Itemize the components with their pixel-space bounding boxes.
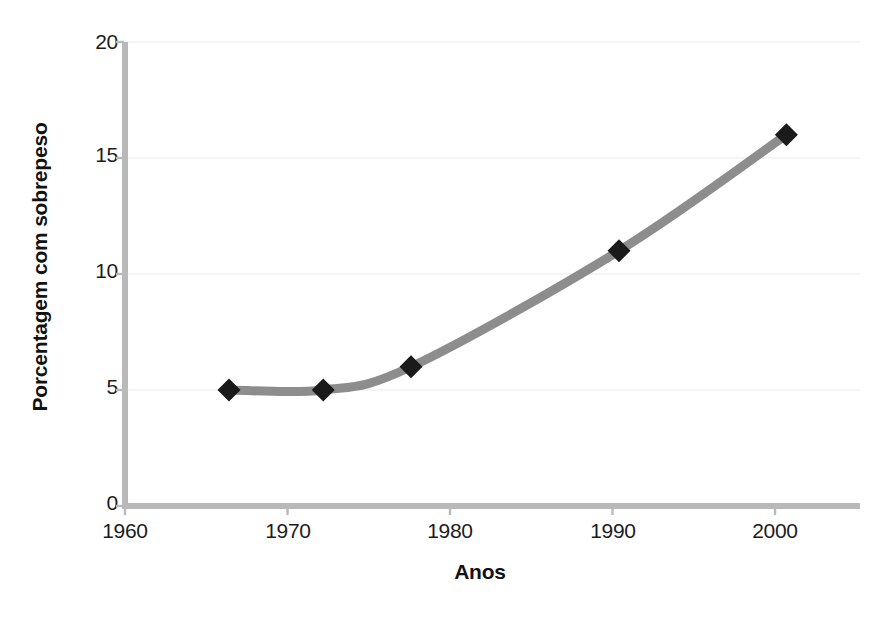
series-markers [218, 123, 798, 401]
chart-container: Porcentagem com sobrepeso 20 15 10 5 0 1… [0, 0, 871, 619]
gridlines [125, 42, 860, 390]
axis-ticks [116, 42, 775, 515]
series-line [229, 135, 786, 392]
data-point-marker [218, 379, 241, 402]
plot-area [0, 0, 871, 619]
data-point-marker [312, 379, 335, 402]
